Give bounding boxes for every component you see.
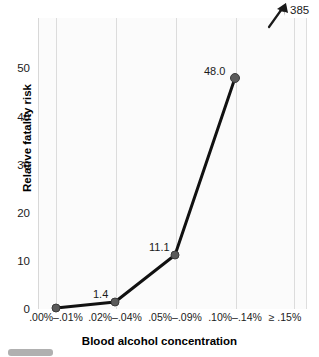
gridline-4 — [236, 18, 237, 309]
y-axis-title: Relative fatality risk — [21, 63, 33, 213]
caption-bar — [8, 349, 53, 356]
gridline-1 — [56, 18, 57, 309]
data-label-1: 1.4 — [93, 289, 108, 300]
gridline-2 — [116, 18, 117, 309]
gridline-3 — [176, 18, 177, 309]
chart-figure: 0 10 20 30 40 50 Relative fatality risk … — [0, 0, 319, 357]
plot-area — [38, 18, 307, 309]
data-label-3: 48.0 — [204, 66, 225, 77]
gridline-5 — [294, 18, 295, 309]
offscale-value-label: 385 — [290, 5, 309, 17]
x-tick-label-4: ≥ .15% — [255, 312, 315, 323]
x-axis-title: Blood alcohol concentration — [0, 335, 319, 347]
y-tick-label-10: 10 — [0, 256, 30, 268]
data-label-2: 11.1 — [149, 242, 170, 253]
